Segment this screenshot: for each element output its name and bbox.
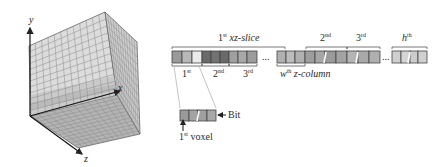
ellipsis-1: ... xyxy=(262,52,270,62)
label-col-2: 2nd xyxy=(213,69,224,79)
label-col-1: 1st xyxy=(182,69,191,79)
brace-col-2 xyxy=(202,64,229,66)
first-voxel-label: 1st voxel xyxy=(179,132,213,142)
label-slice-3: 3rd xyxy=(356,33,366,43)
z-axis-label: z xyxy=(84,153,88,164)
brace-slice-1 xyxy=(172,47,285,49)
brace-col-w xyxy=(277,64,305,66)
label-col-3: 3rd xyxy=(243,69,253,79)
ellipsis-2: ... xyxy=(382,52,390,62)
brace-col-3 xyxy=(229,64,257,66)
label-col-w: wth z-column xyxy=(280,69,331,79)
brace-col-1 xyxy=(172,64,202,66)
bit-label: Bit xyxy=(228,110,240,120)
y-axis-label: y xyxy=(29,14,33,25)
brace-slice-h xyxy=(392,47,427,49)
brace-slice-2 xyxy=(306,47,347,49)
diagram-canvas xyxy=(0,0,445,167)
brace-slice-3 xyxy=(347,47,380,49)
label-slice-2: 2nd xyxy=(320,33,331,43)
voxel-cube xyxy=(29,12,140,154)
label-slice-h: hth xyxy=(402,33,412,43)
x-axis-label: x xyxy=(118,82,122,93)
label-slice-1: 1st xz-slice xyxy=(218,33,260,43)
